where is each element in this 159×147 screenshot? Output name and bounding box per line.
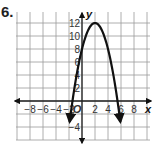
x-tick-label: −8	[24, 104, 36, 115]
parabola-chart: −8−6−4−2O246824681012−4 x y	[0, 0, 159, 147]
x-tick-label: 8	[131, 104, 137, 115]
y-tick-label: 12	[69, 18, 81, 29]
x-tick-label: −6	[37, 104, 49, 115]
axes	[15, 13, 151, 143]
y-tick-label: 8	[74, 44, 80, 55]
y-tick-label: 10	[69, 31, 81, 42]
y-tick-label: −4	[69, 122, 81, 133]
grid-lines	[16, 12, 150, 140]
x-tick-label: −4	[50, 104, 62, 115]
x-tick-label: O	[73, 103, 82, 115]
y-axis-label: y	[85, 8, 93, 20]
x-tick-label: 4	[105, 104, 111, 115]
x-tick-label: 2	[92, 104, 98, 115]
x-axis-label: x	[144, 103, 152, 115]
